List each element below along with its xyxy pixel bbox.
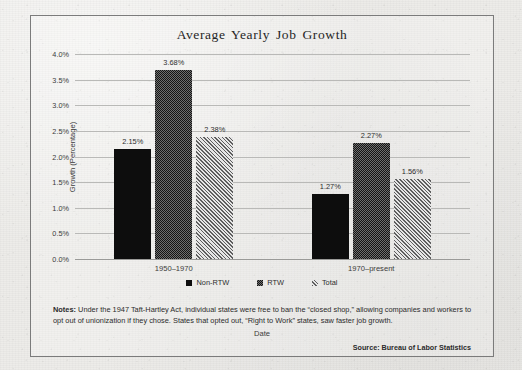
legend-item-rtw[interactable]: RTW <box>257 278 284 287</box>
bar-value-label: 1.56% <box>402 167 423 176</box>
x-axis-category-label: 1950–1970 <box>155 264 193 273</box>
bar-non-rtw-1: 2.15% <box>114 149 151 259</box>
bar-value-label: 2.38% <box>204 125 225 134</box>
gridline <box>75 54 470 55</box>
bar-rtw-2: 2.27% <box>353 143 390 259</box>
x-axis-title: Date <box>254 329 270 338</box>
y-axis-tick-label: 2.5% <box>52 126 69 135</box>
y-axis-tick-label: 1.5% <box>52 178 69 187</box>
bar-rtw-1: 3.68% <box>155 70 192 259</box>
legend-swatch-icon <box>186 280 192 286</box>
legend-label: RTW <box>267 278 284 287</box>
y-axis-tick-label: 0.5% <box>52 229 69 238</box>
legend-label: Total <box>322 278 338 287</box>
notes-block: Notes: Under the 1947 Taft-Hartley Act, … <box>53 304 473 327</box>
bar-non-rtw-2: 1.27% <box>312 194 349 259</box>
bar-value-label: 3.68% <box>163 58 184 67</box>
legend-item-non-rtw[interactable]: Non-RTW <box>186 278 229 287</box>
notes-body: Under the 1947 Taft-Hartley Act, individ… <box>53 305 471 325</box>
legend-item-total[interactable]: Total <box>312 278 338 287</box>
legend-label: Non-RTW <box>196 278 229 287</box>
y-axis-tick-label: 0.0% <box>52 255 69 264</box>
chart-legend: Non-RTWRTWTotal <box>31 278 493 287</box>
y-axis-tick-label: 3.0% <box>52 101 69 110</box>
y-axis-tick-label: 2.0% <box>52 152 69 161</box>
figure-frame: Average Yearly Job Growth Growth (Percen… <box>30 15 494 357</box>
notes-label: Notes: <box>53 305 76 314</box>
gridline <box>75 259 470 260</box>
legend-swatch-icon <box>312 280 318 286</box>
x-axis-category-label: 1970–present <box>348 264 394 273</box>
gridline <box>75 131 470 132</box>
source-line: Source: Bureau of Labor Statistics <box>353 343 471 352</box>
chart-title: Average Yearly Job Growth <box>31 27 493 43</box>
y-axis-tick-label: 4.0% <box>52 50 69 59</box>
bar-value-label: 2.27% <box>361 131 382 140</box>
y-axis-tick-label: 1.0% <box>52 203 69 212</box>
gridline <box>75 105 470 106</box>
legend-swatch-icon <box>257 280 263 286</box>
bar-value-label: 1.27% <box>320 182 341 191</box>
plot-area: Growth (Percentage) 0.0%0.5%1.0%1.5%2.0%… <box>75 54 470 259</box>
y-axis-tick-label: 3.5% <box>52 75 69 84</box>
bar-total-2: 1.56% <box>394 179 431 259</box>
bar-total-1: 2.38% <box>196 137 233 259</box>
gridline <box>75 80 470 81</box>
bar-value-label: 2.15% <box>122 137 143 146</box>
